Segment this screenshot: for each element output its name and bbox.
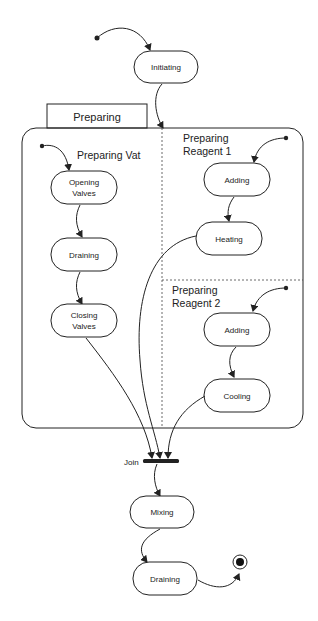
state-final-draining[interactable]: Draining bbox=[133, 562, 197, 595]
state-label: Cooling bbox=[223, 392, 250, 401]
transition bbox=[254, 138, 286, 162]
transition bbox=[141, 529, 160, 562]
state-label: Adding bbox=[225, 176, 250, 185]
state-label: Heating bbox=[215, 235, 243, 244]
state-label: Adding bbox=[225, 326, 250, 335]
transition bbox=[230, 347, 236, 377]
final-state-icon bbox=[233, 555, 247, 569]
join-label: Join bbox=[124, 458, 139, 467]
state-r1-heating[interactable]: Heating bbox=[196, 222, 262, 255]
state-label: Valves bbox=[72, 322, 95, 331]
region-title-reagent2: Reagent 2 bbox=[172, 297, 221, 309]
state-label: Valves bbox=[72, 189, 95, 198]
transition bbox=[42, 145, 69, 170]
state-opening-valves[interactable]: Opening Valves bbox=[51, 171, 117, 204]
transition-to-join bbox=[139, 236, 196, 458]
state-label: Opening bbox=[69, 178, 99, 187]
state-r1-adding[interactable]: Adding bbox=[204, 163, 270, 196]
composite-tab-preparing: Preparing bbox=[47, 104, 147, 128]
transition bbox=[76, 205, 82, 237]
state-closing-valves[interactable]: Closing Valves bbox=[51, 304, 117, 337]
state-label: Draining bbox=[69, 251, 99, 260]
region-title-reagent1: Reagent 1 bbox=[183, 145, 232, 157]
transition-to-initiating bbox=[97, 28, 150, 50]
state-vat-draining[interactable]: Draining bbox=[51, 238, 117, 271]
state-label: Initiating bbox=[151, 63, 181, 72]
state-initiating[interactable]: Initiating bbox=[134, 51, 198, 83]
transition bbox=[253, 288, 286, 311]
region-title-vat: Preparing Vat bbox=[77, 149, 141, 161]
region-title-reagent2: Preparing bbox=[172, 284, 218, 296]
transition-to-mixing bbox=[154, 464, 160, 496]
state-r2-cooling[interactable]: Cooling bbox=[204, 379, 270, 412]
transition-to-join bbox=[86, 338, 152, 458]
transition bbox=[76, 272, 82, 304]
state-mixing[interactable]: Mixing bbox=[130, 496, 194, 528]
state-diagram: Initiating Preparing Preparing Vat Openi… bbox=[0, 0, 318, 621]
transition-to-final bbox=[198, 574, 239, 587]
state-label: Mixing bbox=[150, 508, 173, 517]
join-bar[interactable] bbox=[143, 459, 179, 463]
state-label: Draining bbox=[150, 575, 180, 584]
transition-to-join bbox=[168, 396, 205, 458]
state-r2-adding[interactable]: Adding bbox=[204, 313, 270, 346]
region-title-reagent1: Preparing bbox=[183, 132, 229, 144]
state-label: Closing bbox=[71, 311, 98, 320]
composite-title: Preparing bbox=[73, 111, 121, 123]
transition bbox=[228, 197, 234, 221]
transition-to-preparing bbox=[156, 84, 163, 128]
